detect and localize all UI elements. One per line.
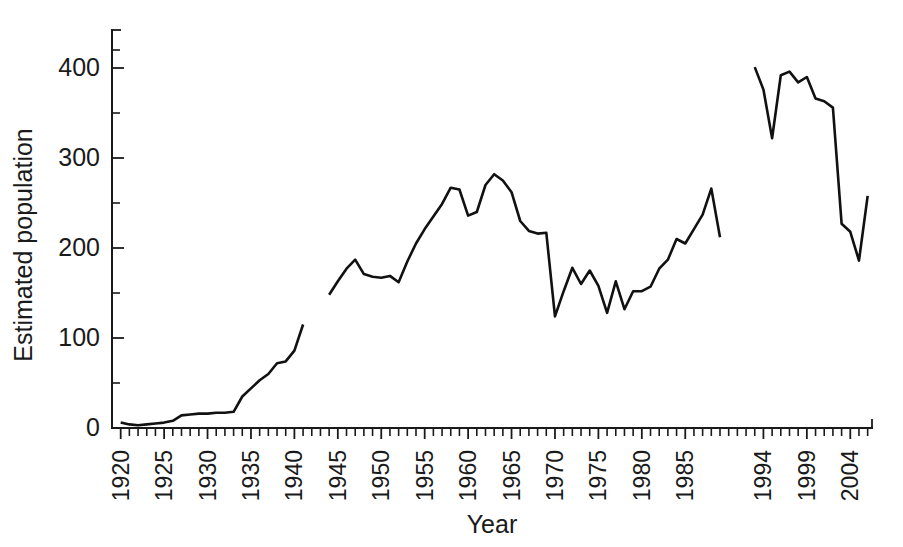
- x-tick-label: 1960: [455, 450, 481, 501]
- axis-spine: [112, 30, 872, 428]
- x-tick-label: 1994: [750, 450, 776, 501]
- data-line-segment: [755, 67, 868, 261]
- data-line-segment: [121, 325, 303, 426]
- x-tick-label: 1985: [672, 450, 698, 501]
- y-axis-title: Estimated population: [9, 128, 37, 361]
- y-tick-label: 400: [58, 53, 100, 81]
- chart-figure: 0100200300400 19201925193019351940194519…: [0, 0, 903, 547]
- x-tick-label: 1970: [542, 450, 568, 501]
- x-tick-label: 1930: [195, 450, 221, 501]
- x-tick-label: 1940: [281, 450, 307, 501]
- y-axis-tick-labels: 0100200300400: [58, 53, 100, 441]
- x-tick-label: 2004: [837, 450, 863, 501]
- x-tick-label: 1999: [794, 450, 820, 501]
- plot-area: 0100200300400 19201925193019351940194519…: [58, 30, 872, 501]
- y-tick-label: 300: [58, 143, 100, 171]
- x-tick-label: 1975: [585, 450, 611, 501]
- x-tick-label: 1950: [368, 450, 394, 501]
- data-series-line: [121, 67, 868, 425]
- y-tick-label: 200: [58, 233, 100, 261]
- line-chart-svg: 0100200300400 19201925193019351940194519…: [0, 0, 903, 547]
- x-tick-label: 1925: [151, 450, 177, 501]
- x-tick-label: 1965: [499, 450, 525, 501]
- axes: [112, 30, 872, 428]
- x-tick-label: 1980: [629, 450, 655, 501]
- y-axis-ticks: [112, 50, 124, 428]
- x-tick-label: 1945: [325, 450, 351, 501]
- x-tick-label: 1955: [412, 450, 438, 501]
- x-axis-title: Year: [467, 510, 518, 538]
- y-tick-label: 0: [86, 413, 100, 441]
- x-tick-label: 1935: [238, 450, 264, 501]
- x-tick-label: 1920: [108, 450, 134, 501]
- data-line-segment: [329, 174, 720, 316]
- x-axis-tick-labels: 1920192519301935194019451950195519601965…: [108, 450, 864, 501]
- y-tick-label: 100: [58, 323, 100, 351]
- x-axis-ticks: [121, 428, 868, 439]
